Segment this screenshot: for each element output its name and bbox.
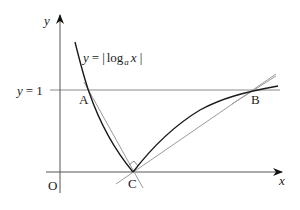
point-B-label: B [251,92,260,107]
x-axis-label: x [278,173,285,188]
point-A-label: A [79,92,89,107]
origin-label: O [48,178,57,193]
y-equals-1-label: y= 1 [15,83,43,98]
point-C-label: C [128,176,137,191]
curve-label: y=|logax| [81,50,142,67]
log-graph-diagram: y x O y= 1 y=|logax| A B C [0,0,300,210]
y-axis-label: y [42,13,50,28]
